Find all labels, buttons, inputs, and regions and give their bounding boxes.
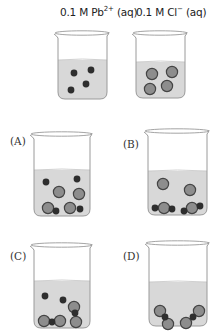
lead-ion: [83, 81, 90, 88]
chloride-ion: [180, 317, 191, 328]
beaker-rim: [146, 241, 209, 245]
chloride-ion: [73, 188, 84, 199]
chloride-ion: [38, 315, 49, 326]
lead-ion: [42, 293, 49, 300]
lead-ion: [88, 67, 95, 74]
label-option-b: (B): [123, 138, 139, 150]
beaker-rim: [31, 132, 92, 136]
lead-ion: [43, 179, 50, 186]
chloride-ion: [54, 315, 65, 326]
chloride-ion: [53, 186, 64, 197]
beaker-rim: [55, 31, 109, 35]
beaker-rim: [145, 129, 209, 133]
chloride-ion: [42, 202, 53, 213]
lead-ion: [169, 206, 176, 213]
liquid: [136, 62, 185, 98]
chloride-ion: [184, 184, 195, 195]
beaker-rim: [31, 243, 92, 247]
lead-ion: [190, 314, 197, 321]
lead-ion: [162, 314, 169, 321]
header-pb-prefix: 0.1 M Pb: [60, 6, 104, 18]
label-option-a: (A): [10, 135, 26, 147]
lead-ion: [197, 203, 204, 210]
header-cl-prefix: 0.1 M Cl: [136, 6, 177, 18]
header-pb-charge: 2+: [104, 5, 114, 13]
chloride-ion: [146, 68, 157, 79]
lead-ion: [49, 319, 56, 326]
lead-ion: [71, 70, 78, 77]
lead-ion: [68, 87, 75, 94]
header-pb-suffix: (aq): [114, 6, 138, 18]
chloride-ion: [157, 178, 168, 189]
chloride-ion: [158, 202, 169, 213]
chloride-ion: [64, 202, 75, 213]
lead-ion: [60, 297, 67, 304]
header-cl-suffix: (aq): [183, 6, 207, 18]
header-pb-solution: 0.1 M Pb2+ (aq): [60, 5, 137, 18]
label-option-c: (C): [10, 250, 26, 262]
diagram-canvas: [0, 0, 216, 336]
beaker-rim: [133, 31, 187, 35]
lead-ion: [72, 310, 79, 317]
chloride-ion: [186, 202, 197, 213]
lead-ion: [152, 205, 159, 212]
beakers-figure: [0, 0, 216, 336]
lead-ion: [74, 176, 81, 183]
beaker-option-c: [30, 243, 92, 328]
liquid: [149, 282, 207, 326]
header-cl-solution: 0.1 M Cl− (aq): [136, 5, 206, 18]
lead-ion: [181, 208, 188, 215]
lead-ion: [77, 206, 84, 213]
beaker-pb-solution: [54, 31, 109, 99]
beaker-cl-solution: [132, 31, 187, 98]
beaker-option-b: [144, 129, 209, 215]
chloride-ion: [161, 80, 172, 91]
beaker-option-d: [145, 241, 209, 330]
beaker-option-a: [30, 132, 92, 216]
lead-ion: [53, 208, 60, 215]
chloride-ion: [166, 66, 177, 77]
liquid: [58, 60, 107, 99]
chloride-ion: [70, 316, 81, 327]
chloride-ion: [144, 83, 155, 94]
label-option-d: (D): [123, 250, 140, 262]
